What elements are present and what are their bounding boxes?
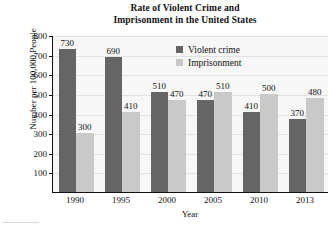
y-tick-label: 300 (34, 130, 48, 139)
bar-violent-crime-2000 (151, 92, 169, 192)
bar-imprisonment-1995 (122, 112, 140, 192)
bar-violent-crime-1990 (59, 49, 77, 192)
bar-violent-crime-2010 (243, 112, 261, 192)
y-tick-label: 400 (34, 110, 48, 119)
legend-swatch-icon-violent-crime (176, 46, 183, 53)
bar-value-label: 470 (165, 90, 189, 99)
chart-figure: Rate of Violent Crime and Imprisonment i… (0, 0, 334, 233)
x-tick-label-1990: 1990 (52, 196, 98, 205)
x-tick-label-1995: 1995 (98, 196, 144, 205)
legend-label-imprisonment: Imprisonment (188, 58, 241, 68)
bar-violent-crime-2005 (197, 100, 215, 192)
legend-label-violent-crime: Violent crime (188, 45, 240, 55)
x-tick-label-2000: 2000 (144, 196, 190, 205)
x-axis-title: Year (52, 209, 328, 219)
legend-item-imprisonment: Imprisonment (176, 56, 241, 69)
bar-imprisonment-1990 (76, 133, 94, 192)
y-tick-label: 700 (34, 51, 48, 60)
bar-violent-crime-1995 (105, 57, 123, 192)
legend-swatch-icon-imprisonment (176, 59, 183, 66)
bar-value-label: 690 (102, 47, 126, 56)
page-edge-mark (3, 222, 39, 223)
bar-value-label: 300 (73, 123, 97, 132)
y-tick-label: 100 (34, 169, 48, 178)
bar-value-label: 510 (211, 82, 235, 91)
legend-item-violent-crime: Violent crime (176, 43, 241, 56)
x-tick-label-2005: 2005 (190, 196, 236, 205)
bar-value-label: 730 (56, 39, 80, 48)
chart-title-line-1: Rate of Violent Crime and (60, 3, 310, 15)
x-tick-label-2013: 2013 (282, 196, 328, 205)
bar-value-label: 500 (257, 84, 281, 93)
bar-violent-crime-2013 (289, 119, 307, 192)
chart-legend: Violent crime Imprisonment (176, 43, 241, 69)
bar-imprisonment-2013 (306, 98, 324, 192)
chart-title-line-2: Imprisonment in the United States (60, 15, 310, 27)
bar-imprisonment-2010 (260, 94, 278, 192)
bar-value-label: 480 (303, 88, 327, 97)
y-tick-label: 800 (34, 32, 48, 41)
y-tick-label: 600 (34, 71, 48, 80)
y-tick-label: 200 (34, 149, 48, 158)
bar-imprisonment-2000 (168, 100, 186, 192)
chart-title: Rate of Violent Crime and Imprisonment i… (60, 3, 310, 26)
y-tick-label: 500 (34, 90, 48, 99)
bar-value-label: 410 (119, 102, 143, 111)
bar-imprisonment-2005 (214, 92, 232, 192)
x-tick-label-2010: 2010 (236, 196, 282, 205)
